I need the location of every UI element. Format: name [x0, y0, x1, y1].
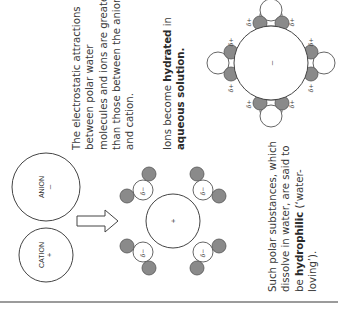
hydrated-cation-sign: +	[169, 218, 178, 223]
delta-plus-label: δ+	[245, 100, 252, 109]
hydrated-line-2: aqueous solution.	[175, 48, 186, 150]
delta-minus-label: δ−	[199, 249, 206, 258]
attraction-line-1: The electrostatic attractions	[71, 6, 82, 151]
attraction-line-3: molecules and ions are greater	[98, 0, 109, 150]
hydrophilic-line-4: loving’).	[307, 251, 318, 292]
delta-plus-label: δ+	[307, 38, 314, 47]
delta-plus-label: δ+	[288, 100, 295, 109]
cation-ion: CATION +	[19, 228, 73, 282]
hydrophilic-line-1: Such polar substances, which	[267, 141, 278, 292]
hydrated-term: hydrated	[162, 30, 173, 82]
hydrated-line-1: Ions become hydrated in	[162, 17, 173, 150]
anion-label: ANION	[38, 176, 45, 198]
attraction-line-2: between polar water	[84, 44, 95, 150]
hydrophilic-line-3: be hydrophilic (‘water-	[294, 169, 305, 292]
hydrated-cation: δ− δ− δ− δ− +	[120, 167, 226, 275]
hydration-diagram: CATION + ANION – δ− δ− δ−	[0, 0, 338, 316]
delta-plus-label: δ+	[227, 84, 234, 93]
delta-plus-label: δ+	[307, 84, 314, 93]
hydrated-anion-sign: –	[267, 60, 276, 65]
attraction-text: The electrostatic attractions between po…	[71, 0, 135, 151]
water-molecule: δ−	[120, 167, 156, 203]
hydrated-text: Ions become hydrated in aqueous solution…	[162, 17, 186, 150]
delta-plus-label: δ+	[288, 18, 295, 27]
delta-minus-label: δ−	[139, 187, 146, 196]
water-molecule: δ−	[120, 239, 156, 275]
cation-label: CATION	[38, 242, 45, 268]
attraction-line-5: and cation.	[124, 93, 135, 150]
hydrophilic-text: Such polar substances, which dissolve in…	[267, 141, 318, 292]
hydrophilic-line-2: dissolve in water, are said to	[280, 145, 291, 292]
cation-sign: +	[45, 252, 54, 257]
delta-minus-label: δ−	[139, 249, 146, 258]
anion-ion: ANION –	[12, 153, 80, 221]
water-molecule: δ−	[190, 167, 226, 203]
hydrated-anion: δ+ δ+ δ+ δ+ δ+ δ+ δ+ δ+ –	[207, 0, 335, 127]
anion-sign: –	[45, 184, 54, 189]
water-molecule: δ−	[190, 239, 226, 275]
delta-plus-label: δ+	[245, 18, 252, 27]
attraction-line-4: than those between the anion	[111, 0, 122, 150]
delta-minus-label: δ−	[199, 187, 206, 196]
delta-plus-label: δ+	[227, 38, 234, 47]
arrow-right-icon	[77, 210, 118, 232]
hydrophilic-term: hydrophilic	[294, 212, 305, 276]
